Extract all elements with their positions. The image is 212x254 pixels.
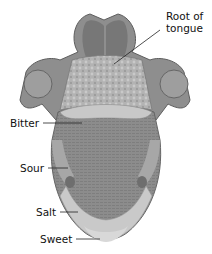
label-root-line2: tongue (166, 22, 203, 34)
label-bitter: Bitter (10, 117, 39, 129)
label-sweet: Sweet (40, 233, 72, 245)
label-root-of-tongue: Root of tongue (166, 10, 203, 34)
label-root-line1: Root of (166, 10, 203, 22)
label-sour: Sour (20, 162, 44, 174)
root-region (60, 56, 152, 111)
label-salt: Salt (36, 206, 56, 218)
